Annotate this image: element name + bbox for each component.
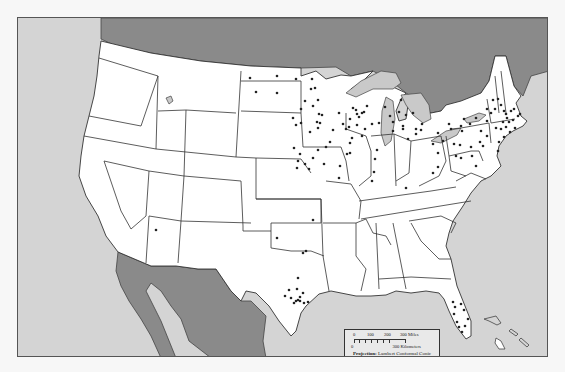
location-point <box>437 152 440 155</box>
location-point <box>300 122 303 125</box>
map-legend: 0 100 200 300 Miles 0 300 Kilometers Pro… <box>344 329 440 357</box>
location-point <box>339 165 342 168</box>
location-point <box>351 137 354 140</box>
location-point <box>371 123 374 126</box>
location-point <box>349 118 352 121</box>
projection-value: Lambert Conformal Conic <box>378 351 431 356</box>
location-point <box>346 153 349 156</box>
location-point <box>364 128 367 131</box>
location-point <box>307 301 310 304</box>
location-point <box>321 114 324 117</box>
location-point <box>292 117 295 120</box>
location-point <box>276 92 279 95</box>
location-point <box>352 107 355 110</box>
location-point <box>325 146 328 149</box>
location-point <box>312 219 315 222</box>
location-point <box>471 155 474 158</box>
projection-line: Projection: Lambert Conformal Conic <box>345 351 439 356</box>
location-point <box>371 180 374 183</box>
location-point <box>284 295 287 298</box>
location-point <box>293 302 296 305</box>
location-point <box>461 130 464 133</box>
location-point <box>317 127 320 130</box>
location-point <box>505 113 508 116</box>
location-point <box>437 132 440 135</box>
location-point <box>415 128 418 131</box>
location-point <box>296 288 299 291</box>
location-point <box>389 115 392 118</box>
location-point <box>349 152 352 155</box>
location-point <box>295 124 298 127</box>
location-point <box>316 121 319 124</box>
location-point <box>304 100 307 103</box>
location-point <box>517 115 520 118</box>
location-point <box>486 135 489 138</box>
location-point <box>304 163 307 166</box>
location-point <box>442 140 445 143</box>
location-point <box>486 108 489 111</box>
location-point <box>312 157 315 160</box>
location-point <box>490 112 493 115</box>
location-point <box>454 306 457 309</box>
location-point <box>460 303 463 306</box>
location-point <box>452 301 455 304</box>
location-point <box>512 119 515 122</box>
location-point <box>407 138 410 141</box>
location-point <box>323 163 326 166</box>
map-frame: 0 100 200 300 Miles 0 300 Kilometers Pro… <box>17 17 548 357</box>
location-point <box>461 331 464 334</box>
location-point <box>460 157 463 160</box>
location-point <box>513 108 516 111</box>
location-point <box>514 127 517 130</box>
location-point <box>297 277 300 280</box>
location-point <box>506 117 509 120</box>
location-point <box>495 127 498 130</box>
location-point <box>302 252 305 255</box>
scale-tick-300: 300 Miles <box>400 332 419 337</box>
location-point <box>464 325 467 328</box>
location-point <box>155 229 158 232</box>
location-point <box>348 126 351 129</box>
location-point <box>288 289 291 292</box>
location-point <box>455 155 458 158</box>
location-point <box>470 146 473 149</box>
location-point <box>510 110 513 113</box>
location-point <box>376 149 379 152</box>
location-point <box>297 160 300 163</box>
location-point <box>503 110 506 113</box>
location-point <box>349 142 352 145</box>
scale-km-labels: 0 300 Kilometers <box>351 344 437 349</box>
location-point <box>448 123 451 126</box>
location-point <box>308 168 311 171</box>
location-point <box>412 112 415 115</box>
map-canvas <box>18 18 548 357</box>
location-point <box>319 122 322 125</box>
location-point <box>398 111 401 114</box>
location-point <box>345 128 348 131</box>
location-point <box>405 187 408 190</box>
location-point <box>358 116 361 119</box>
location-point <box>332 129 335 132</box>
location-point <box>366 105 369 108</box>
location-point <box>384 106 387 109</box>
scale-tick-100: 100 <box>367 332 374 337</box>
location-point <box>305 250 308 253</box>
location-point <box>508 121 511 124</box>
location-point <box>509 131 512 134</box>
location-point <box>355 109 358 112</box>
location-point <box>497 98 500 101</box>
location-point <box>519 113 522 116</box>
location-point <box>303 302 306 305</box>
location-point <box>458 326 461 329</box>
location-point <box>503 136 506 139</box>
location-point <box>402 125 405 128</box>
location-point <box>309 131 312 134</box>
location-point <box>500 104 503 107</box>
location-point <box>494 108 497 111</box>
location-point <box>300 108 303 111</box>
location-point <box>453 313 456 316</box>
location-point <box>505 126 508 129</box>
location-point <box>374 158 377 161</box>
location-point <box>296 167 299 170</box>
location-point <box>415 133 418 136</box>
